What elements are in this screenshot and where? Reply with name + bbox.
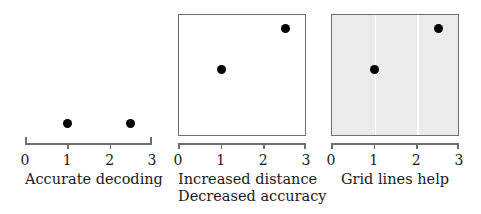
panel-caption-increased-distance: Increased distance Decreased accuracy — [178, 171, 306, 205]
axis-tick — [304, 143, 306, 149]
plot-area-increased-distance — [178, 14, 306, 136]
gridline — [375, 15, 377, 135]
panel-caption-accurate-decoding: Accurate decoding — [25, 171, 160, 188]
axis-tick — [263, 143, 265, 149]
gridline — [417, 15, 419, 135]
plot-area-grid-lines-help — [331, 14, 459, 136]
axis-tick-label: 0 — [15, 153, 35, 167]
axis-tick — [110, 143, 112, 149]
axis-tick — [457, 143, 459, 149]
axis-tick-label: 2 — [406, 153, 426, 167]
axis-tick — [67, 143, 69, 149]
axis-tick-label: 0 — [168, 153, 188, 167]
panel-caption-grid-lines-help: Grid lines help — [331, 171, 459, 188]
panel-grid-lines-help: 0 1 2 3 Grid lines help — [331, 0, 459, 214]
axis-tick-label: 3 — [142, 153, 162, 167]
axis-tick — [331, 143, 333, 149]
axis-tick — [150, 137, 152, 143]
data-point — [370, 65, 379, 74]
data-point — [63, 119, 72, 128]
axis-tick-label: 3 — [449, 153, 469, 167]
axis-tick-label: 2 — [100, 153, 120, 167]
axis-tick — [416, 143, 418, 149]
axis-tick-label: 1 — [57, 153, 77, 167]
data-point — [217, 65, 226, 74]
caption-line: Grid lines help — [331, 171, 459, 188]
plot-area-accurate-decoding — [25, 14, 152, 136]
data-point — [126, 119, 135, 128]
axis-line — [178, 143, 306, 145]
figure-container: 0 1 2 3 Accurate decoding 0 1 2 3 Increa… — [0, 0, 481, 214]
caption-line: Decreased accuracy — [178, 188, 306, 205]
caption-line: Accurate decoding — [25, 171, 160, 188]
axis-tick-label: 1 — [211, 153, 231, 167]
data-point — [281, 24, 290, 33]
data-point — [434, 24, 443, 33]
axis-tick — [25, 137, 27, 143]
axis-tick-label: 0 — [321, 153, 341, 167]
axis-tick-label: 1 — [364, 153, 384, 167]
axis-tick — [374, 143, 376, 149]
axis-tick — [178, 143, 180, 149]
axis-tick-label: 2 — [253, 153, 273, 167]
panel-increased-distance: 0 1 2 3 Increased distance Decreased acc… — [178, 0, 306, 214]
axis-tick-label: 3 — [296, 153, 316, 167]
caption-line: Increased distance — [178, 171, 306, 188]
axis-tick — [221, 143, 223, 149]
panel-accurate-decoding: 0 1 2 3 Accurate decoding — [25, 0, 160, 214]
axis-line — [331, 143, 459, 145]
axis-line — [25, 143, 152, 145]
